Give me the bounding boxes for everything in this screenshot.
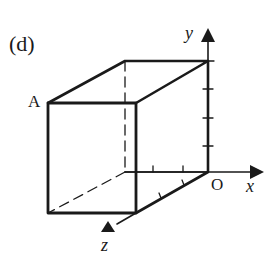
top-face-edges bbox=[48, 61, 208, 103]
panel-label: (d) bbox=[9, 33, 35, 55]
front-face bbox=[48, 103, 136, 213]
cuboid-diagram bbox=[0, 0, 270, 257]
right-face-edges bbox=[136, 61, 208, 213]
y-axis-label: y bbox=[185, 24, 193, 42]
point-a-label: A bbox=[28, 93, 40, 110]
hidden-edges bbox=[48, 61, 125, 213]
y-axis-arrowhead bbox=[201, 28, 215, 42]
origin-label: O bbox=[211, 176, 223, 193]
z-axis bbox=[117, 213, 136, 224]
x-axis-label: x bbox=[246, 177, 254, 195]
z-axis-label: z bbox=[101, 236, 108, 254]
x-axis-ticks bbox=[153, 166, 183, 172]
z-axis-arrowhead bbox=[101, 221, 115, 232]
